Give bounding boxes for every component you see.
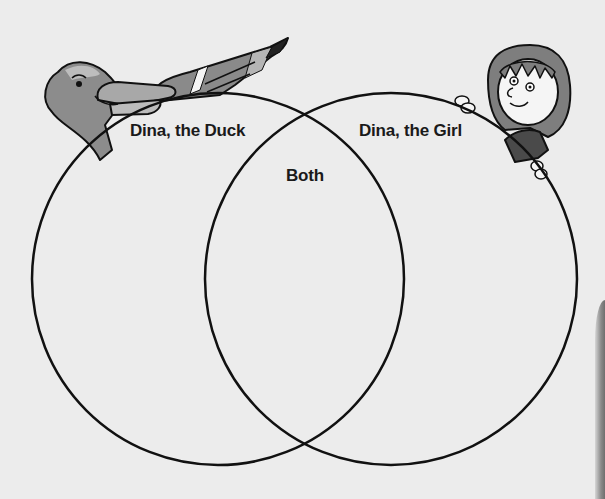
- set-label-girl: Dina, the Girl: [359, 121, 462, 141]
- page-edge-shadow: [595, 300, 605, 499]
- intersection-label-both: Both: [286, 166, 324, 186]
- set-label-duck: Dina, the Duck: [130, 121, 245, 141]
- duck-head-illustration: [45, 62, 175, 160]
- venn-circle-duck: [32, 93, 404, 465]
- venn-diagram: [0, 0, 605, 499]
